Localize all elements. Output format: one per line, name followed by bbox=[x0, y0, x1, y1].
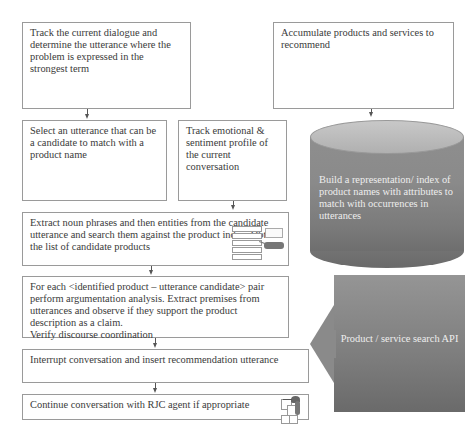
step-track-sentiment-text: Track emotional & sentiment profile of t… bbox=[186, 125, 268, 172]
step-track-sentiment: Track emotional & sentiment profile of t… bbox=[178, 120, 287, 201]
arrow-down-icon bbox=[153, 388, 157, 393]
product-index-text: Build a representation/ index of product… bbox=[319, 174, 461, 222]
step-select-utterance-text: Select an utterance that can be a candid… bbox=[30, 125, 156, 160]
cylinder-top bbox=[310, 120, 464, 154]
accumulate-products-box: Accumulate products and services to reco… bbox=[273, 22, 454, 109]
arrow-down-icon bbox=[149, 270, 153, 275]
product-index-cylinder: Build a representation/ index of product… bbox=[310, 120, 464, 268]
step-track-dialogue: Track the current dialogue and determine… bbox=[22, 22, 191, 109]
arrow-down-icon bbox=[231, 205, 235, 210]
list-search-icon bbox=[232, 226, 284, 262]
arrow-down-icon bbox=[85, 114, 89, 119]
step-select-utterance: Select an utterance that can be a candid… bbox=[22, 120, 167, 201]
arrow-left-icon bbox=[310, 305, 334, 383]
arrow-down-icon bbox=[153, 343, 157, 348]
agent-icon bbox=[279, 393, 305, 427]
arrow-down-icon bbox=[369, 112, 373, 117]
step-interrupt-conversation: Interrupt conversation and insert recomm… bbox=[22, 349, 309, 383]
step-continue-text: Continue conversation with RJC agent if … bbox=[30, 399, 249, 410]
search-api-text: Product / service search API bbox=[334, 333, 465, 345]
step-continue-conversation: Continue conversation with RJC agent if … bbox=[22, 394, 309, 420]
step-argumentation-analysis: For each <identified product – utterance… bbox=[22, 276, 289, 338]
accumulate-products-text: Accumulate products and services to reco… bbox=[281, 27, 434, 50]
step-argumentation-text: For each <identified product – utterance… bbox=[30, 281, 281, 329]
step-interrupt-text: Interrupt conversation and insert recomm… bbox=[30, 354, 278, 365]
step-track-dialogue-text: Track the current dialogue and determine… bbox=[30, 27, 171, 74]
